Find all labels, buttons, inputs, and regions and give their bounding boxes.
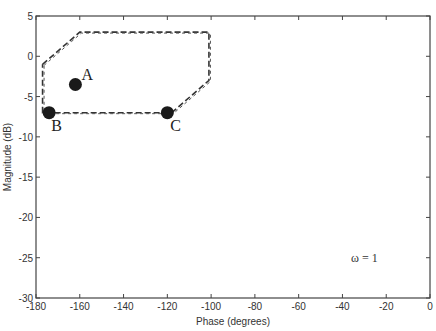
y-tick-label: -15 — [19, 172, 34, 183]
point-label-b: B — [51, 117, 62, 134]
x-tick-label: -100 — [201, 301, 221, 312]
omega-annotation: ω = 1 — [351, 251, 378, 265]
x-tick-labels: -180-160-140-120-100-80-60-40-200 — [26, 301, 433, 312]
y-tick-labels: 50-5-10-15-20-25-30 — [19, 11, 34, 304]
x-tick-label: -140 — [114, 301, 134, 312]
x-tick-label: -160 — [70, 301, 90, 312]
x-tick-label: -60 — [291, 301, 306, 312]
point-a — [69, 78, 82, 91]
nichols-chart: -180-160-140-120-100-80-60-40-200 50-5-1… — [0, 0, 436, 331]
y-tick-label: -5 — [24, 92, 33, 103]
y-tick-label: 0 — [27, 51, 33, 62]
y-tick-label: -30 — [19, 293, 34, 304]
x-axis-label: Phase (degrees) — [196, 316, 270, 327]
point-label-c: C — [170, 117, 181, 134]
x-tick-label: -40 — [335, 301, 350, 312]
x-tick-label: -120 — [157, 301, 177, 312]
x-tick-label: 0 — [427, 301, 433, 312]
x-tick-label: -20 — [379, 301, 394, 312]
x-tick-label: -80 — [248, 301, 263, 312]
point-label-a: A — [81, 66, 93, 83]
y-tick-label: -20 — [19, 212, 34, 223]
y-tick-label: 5 — [27, 11, 33, 22]
y-tick-label: -25 — [19, 253, 34, 264]
y-axis-label: Magnitude (dB) — [2, 123, 13, 191]
y-tick-label: -10 — [19, 132, 34, 143]
